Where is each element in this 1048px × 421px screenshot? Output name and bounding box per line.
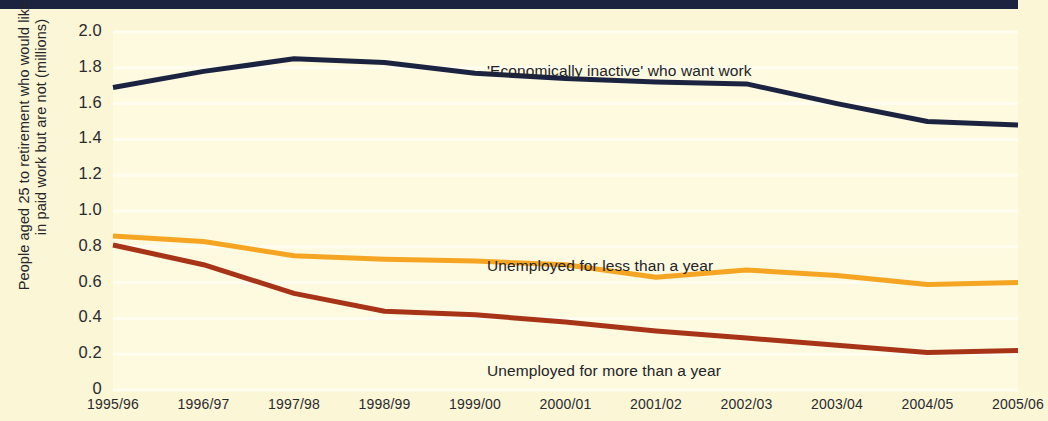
gridlines [113, 32, 1018, 390]
series-label: 'Economically inactive' who want work [487, 62, 752, 80]
series-label: Unemployed for more than a year [487, 362, 721, 380]
series-label: Unemployed for less than a year [487, 257, 713, 275]
